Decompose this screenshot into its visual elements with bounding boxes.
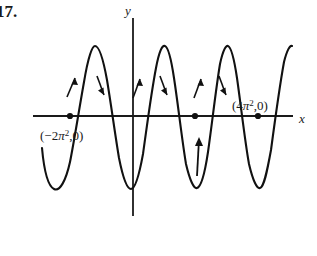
x-axis-label: x (298, 111, 305, 126)
right-label-suffix: ,0) (254, 98, 268, 113)
point-label-left: (−2π2,0) (40, 128, 83, 143)
curve-group (42, 46, 292, 190)
arrow-up-2 (133, 79, 143, 98)
arrow-standalone-up (195, 137, 203, 176)
arrow-up-3 (194, 79, 204, 98)
point-label-right: (4π2,0) (232, 98, 268, 113)
graph-figure: y x (−2π2,0) (4π2,0) (0, 0, 317, 256)
arrow-up-1 (67, 78, 78, 97)
arrow-down-1 (97, 76, 104, 95)
arrow-down-3 (219, 76, 226, 95)
left-label-prefix: −2 (44, 128, 58, 143)
svg-text:(−2π2,0): (−2π2,0) (40, 128, 83, 143)
point-dot-middle (192, 113, 198, 119)
point-dot-right (255, 113, 261, 119)
arrow-down-2 (160, 76, 167, 95)
oscillating-curve (42, 46, 292, 190)
point-dot-left (67, 113, 73, 119)
left-label-suffix: ,0) (69, 128, 83, 143)
svg-text:(4π2,0): (4π2,0) (232, 98, 268, 113)
y-axis-label: y (123, 3, 131, 18)
figure-page: 17. (0, 0, 317, 256)
